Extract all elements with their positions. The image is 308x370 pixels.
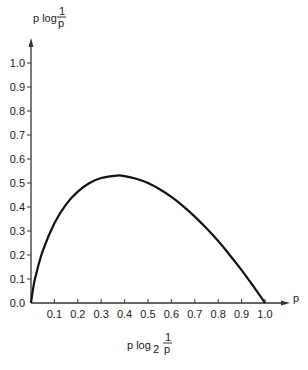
y-axis-title-frac-den: p <box>58 17 64 29</box>
y-tick-label: 0.6 <box>10 153 25 165</box>
x-tick-label: 0.5 <box>140 308 155 320</box>
y-axis-title: p log 1 p <box>33 5 66 29</box>
y-axis-title-frac-num: 1 <box>59 5 65 17</box>
x-tick-label: 0.7 <box>187 308 202 320</box>
x-tick-label: 0.6 <box>164 308 179 320</box>
y-axis-title-prefix: p log <box>33 12 57 24</box>
x-tick-label: 0.2 <box>70 308 85 320</box>
x-axis-arrow-icon <box>281 301 290 306</box>
y-tick-label: 0.8 <box>10 105 25 117</box>
caption-frac-num: 1 <box>165 331 171 343</box>
y-tick-label: 0.5 <box>10 177 25 189</box>
x-tick-label: 0.4 <box>117 308 132 320</box>
y-tick-label: 0.7 <box>10 129 25 141</box>
caption-frac-den: p <box>164 343 170 355</box>
x-tick-label: 0.3 <box>94 308 109 320</box>
y-tick-label: 0.1 <box>10 273 25 285</box>
y-tick-label: 1.0 <box>10 57 25 69</box>
x-tick-label: 0.9 <box>234 308 249 320</box>
x-ticks: 0.10.20.30.40.50.60.70.80.91.0 <box>47 299 273 320</box>
entropy-curve <box>31 175 265 303</box>
y-tick-label: 0.4 <box>10 201 25 213</box>
y-tick-label: 0.3 <box>10 225 25 237</box>
chart-caption: p log 2 1 p <box>127 331 172 355</box>
y-axis-arrow-icon <box>29 38 34 47</box>
x-tick-label: 0.8 <box>211 308 226 320</box>
entropy-chart: p log 1 p p 0.00.10.20.30.40.50.60.70.80… <box>0 0 308 370</box>
y-tick-label: 0.9 <box>10 81 25 93</box>
x-tick-label: 1.0 <box>257 308 272 320</box>
y-tick-label: 0.0 <box>10 297 25 309</box>
caption-subscript: 2 <box>153 343 159 355</box>
x-axis-title: p <box>293 292 299 304</box>
caption-prefix: p log <box>127 339 151 351</box>
y-ticks: 0.00.10.20.30.40.50.60.70.80.91.0 <box>10 57 31 309</box>
x-tick-label: 0.1 <box>47 308 62 320</box>
y-tick-label: 0.2 <box>10 249 25 261</box>
